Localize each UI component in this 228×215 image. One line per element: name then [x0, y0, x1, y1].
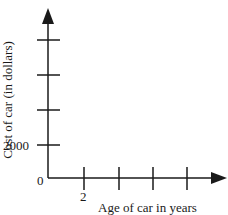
origin-label: 0 [37, 174, 44, 187]
chart-axes [0, 0, 228, 215]
x-axis-arrow-icon [211, 172, 227, 184]
x-axis-label: Age of car in years [98, 201, 197, 214]
x-tick-label-2: 2 [80, 190, 87, 203]
y-axis-arrow-icon [42, 8, 54, 24]
y-axis-label: Cost of car (in dollars) [0, 41, 16, 159]
